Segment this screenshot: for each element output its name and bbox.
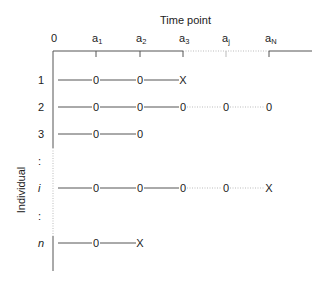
observation-marker: 0 [137,74,143,86]
observation-marker: 0 [137,182,143,194]
y-axis-title: Individual [15,167,27,213]
row-label: i [38,182,41,194]
individual-row: : [38,155,41,167]
observation-marker: 0 [180,182,186,194]
time-point-label: 0 [51,32,57,44]
individual-row: 200000 [38,101,272,113]
individual-row: n0X [38,237,144,249]
row-label: 1 [38,74,44,86]
time-point-label: a1 [92,32,102,46]
row-label: : [38,210,41,222]
observation-marker: 0 [137,128,143,140]
row-label: n [38,237,44,249]
event-marker: X [136,237,144,249]
x-axis-title: Time point [160,14,211,26]
time-point-diagram: Time point Individual 0a1a2a3ajaN 100X20… [0,0,331,284]
event-marker: X [265,182,273,194]
row-label: 3 [38,128,44,140]
time-point-label: aN [265,32,277,46]
observation-marker: 0 [266,101,272,113]
row-label: 2 [38,101,44,113]
individual-row: i0000X [38,182,273,194]
event-marker: X [179,74,187,86]
observation-marker: 0 [93,101,99,113]
observation-marker: 0 [93,74,99,86]
time-point-label: a2 [136,32,146,46]
observation-marker: 0 [180,101,186,113]
observation-marker: 0 [93,182,99,194]
observation-marker: 0 [223,101,229,113]
observation-marker: 0 [223,182,229,194]
individual-rows: 100X200000300:i0000X:n0X [38,74,273,249]
row-label: : [38,155,41,167]
time-point-label: aj [222,32,230,46]
time-point-labels: 0a1a2a3ajaN [51,32,277,46]
observation-marker: 0 [93,128,99,140]
observation-marker: 0 [93,237,99,249]
time-point-label: a3 [179,32,189,46]
individual-row: 100X [38,74,187,86]
observation-marker: 0 [137,101,143,113]
individual-row: : [38,210,41,222]
individual-row: 300 [38,128,143,140]
